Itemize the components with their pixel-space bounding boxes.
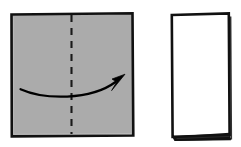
step-before-fold <box>12 13 134 136</box>
step-after-fold <box>172 13 232 141</box>
origami-fold-diagram <box>0 0 241 147</box>
fold-diagram-container: Paper folding step diagram Square sheet … <box>0 0 241 147</box>
white-folded-rectangle <box>172 13 230 136</box>
